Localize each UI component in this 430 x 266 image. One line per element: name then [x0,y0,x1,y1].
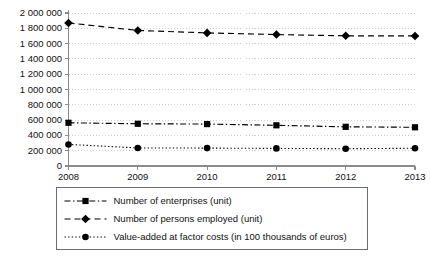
y-tick-label: 600 000 [28,114,62,125]
data-point [135,145,142,152]
data-point [135,121,141,127]
x-tick-label: 2012 [335,171,356,182]
x-tick-label: 2008 [58,171,79,182]
data-point [65,141,72,148]
legend-label: Number of enterprises (unit) [114,195,232,206]
y-tick-label: 400 000 [28,129,62,140]
x-tick-label: 2011 [266,171,286,182]
y-tick-label: 1 200 000 [20,68,62,79]
y-tick-label: 800 000 [28,99,62,110]
x-tick-label: 2010 [197,171,218,182]
data-point [343,124,349,130]
data-point [342,145,349,152]
y-tick-label: 2 000 000 [20,7,62,18]
chart-legend: Number of enterprises (unit)Number of pe… [57,188,368,250]
circle-marker-icon [82,234,89,241]
data-point [204,121,210,127]
legend-label: Number of persons employed (unit) [114,213,263,224]
y-tick-label: 1 600 000 [20,38,62,49]
chart-canvas: 0200 000400 000600 000800 0001 000 0001 … [0,0,430,266]
data-point [412,124,418,130]
y-tick-label: 1 000 000 [20,84,62,95]
y-tick-label: 0 [57,160,62,171]
y-tick-label: 1 400 000 [20,53,62,64]
y-tick-label: 1 800 000 [20,22,62,33]
data-point [204,145,211,152]
x-tick-label: 2009 [127,171,148,182]
data-point [412,145,419,152]
square-marker-icon [82,198,88,204]
data-point [273,122,279,128]
x-tick-label: 2013 [404,171,425,182]
legend-label: Value-added at factor costs (in 100 thou… [114,231,347,242]
line-chart: 0200 000400 000600 000800 0001 000 0001 … [0,0,430,266]
data-point [273,145,280,152]
data-point [65,120,71,126]
y-tick-label: 200 000 [28,145,62,156]
